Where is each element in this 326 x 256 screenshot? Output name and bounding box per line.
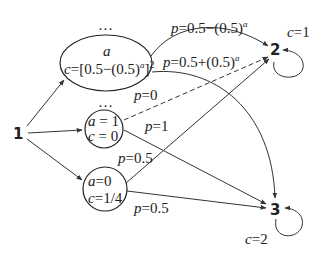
edge-a1-to-2-label: p=0 bbox=[133, 87, 157, 103]
state-a1-ellipsis: … bbox=[98, 94, 113, 110]
state-a0-line1: a=0 bbox=[88, 173, 111, 189]
edge-a0-to-2-label: p=0.5 bbox=[117, 150, 153, 166]
state-top-line1: a bbox=[103, 43, 111, 59]
node-1: 1 bbox=[13, 125, 23, 143]
edge-top-to-2-label: p=0.5−(0.5)a bbox=[170, 19, 248, 37]
edge-top-to-3-label: p=0.5+(0.5)a bbox=[162, 53, 240, 71]
node-2-cost-label: c=1 bbox=[287, 24, 310, 40]
state-top-ellipsis: … bbox=[98, 17, 113, 33]
edge-a1-to-3-label: p=1 bbox=[144, 118, 168, 134]
edge-1-to-top bbox=[27, 80, 64, 126]
node-3-cost-label: c=2 bbox=[245, 231, 268, 247]
state-a1-line2: c = 0 bbox=[88, 128, 118, 144]
state-a0-line2: c=1/4 bbox=[88, 190, 123, 206]
mdp-diagram: 1 2 c=1 3 c=2 … a c=[0.5−(0.5)a]2 … a = … bbox=[0, 0, 326, 256]
edge-top-to-3 bbox=[152, 71, 275, 198]
node-2: 2 bbox=[270, 41, 280, 59]
state-top-line2: c=[0.5−(0.5)a]2 bbox=[64, 59, 155, 78]
edge-1-to-a0 bbox=[27, 139, 82, 180]
state-a1-line1: a = 1 bbox=[88, 113, 119, 129]
node-3: 3 bbox=[270, 201, 280, 219]
edge-a0-to-3-label: p=0.5 bbox=[133, 200, 169, 216]
edge-1-to-a1 bbox=[28, 130, 82, 133]
